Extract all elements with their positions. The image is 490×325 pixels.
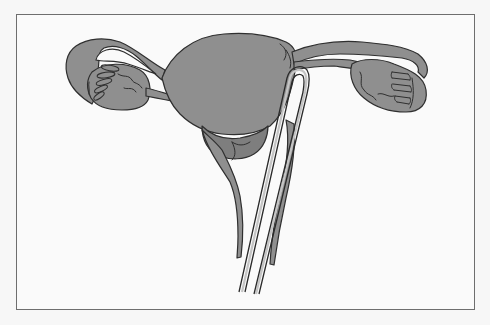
diagram-canvas — [0, 0, 490, 325]
left-ovary — [88, 64, 150, 110]
uterus-body — [162, 33, 297, 134]
right-ovary — [351, 60, 427, 113]
uterus-illustration — [0, 0, 490, 325]
